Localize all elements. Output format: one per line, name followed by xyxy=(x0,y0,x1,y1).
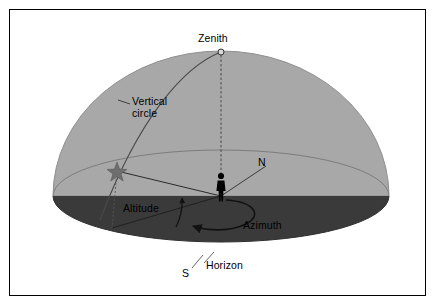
south-leader-line xyxy=(192,255,203,268)
label-vertical-circle-line2: circle xyxy=(132,107,157,119)
label-south: S xyxy=(182,268,189,280)
diagram-figure: Zenith Verticalcircle N Altitude Azimuth… xyxy=(0,0,437,307)
label-horizon: Horizon xyxy=(206,260,243,272)
label-zenith: Zenith xyxy=(198,33,228,45)
label-vertical-circle: Verticalcircle xyxy=(132,96,167,119)
label-north: N xyxy=(258,157,266,169)
label-altitude: Altitude xyxy=(123,203,159,215)
label-azimuth: Azimuth xyxy=(243,220,282,232)
label-vertical-circle-line1: Vertical xyxy=(132,95,167,107)
zenith-circle-marker xyxy=(218,49,224,55)
